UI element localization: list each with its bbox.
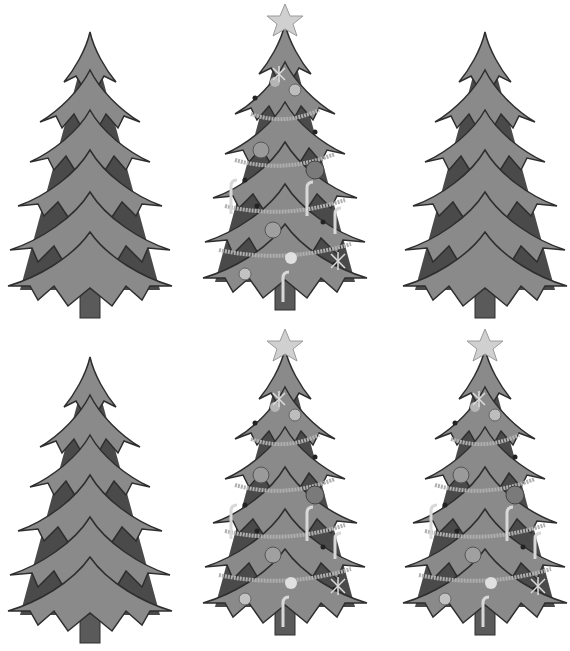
christmas-tree-icon [395, 10, 570, 330]
plain-tree-1 [0, 10, 180, 330]
decorated-christmas-tree-icon [395, 327, 570, 647]
decorated-tree-3 [395, 327, 570, 647]
decorated-christmas-tree-icon [195, 327, 375, 647]
christmas-tree-icon [0, 335, 180, 651]
plain-tree-3 [0, 335, 180, 651]
decorated-tree-2 [195, 327, 375, 647]
decorated-christmas-tree-icon [195, 2, 375, 322]
plain-tree-2 [395, 10, 570, 330]
decorated-tree-1 [195, 2, 375, 322]
christmas-tree-icon [0, 10, 180, 330]
